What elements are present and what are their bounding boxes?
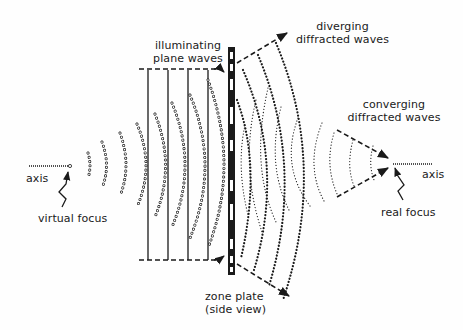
axis-left-label: axis [26, 172, 48, 185]
virtual-wavefronts [88, 80, 224, 248]
illuminating-label: illuminating plane waves [138, 39, 238, 65]
plane-wave-lines [148, 70, 208, 260]
zone-plate-strip [228, 47, 235, 275]
illuminating-line1: illuminating [138, 39, 238, 52]
real-focus-label: real focus [381, 206, 436, 219]
virtual-wavefronts-inner [88, 80, 224, 248]
zone-plate-line2: (side view) [205, 303, 266, 316]
axis-right-label: axis [422, 168, 444, 181]
virtual-focus-label: virtual focus [38, 212, 107, 225]
illumination-boundary [139, 69, 224, 260]
converging-line1: converging [335, 98, 453, 111]
virtual-focus-arrow-icon [59, 172, 68, 207]
converging-label: converging diffracted waves [335, 98, 453, 124]
diverging-line1: diverging [285, 20, 400, 33]
diverging-line2: diffracted waves [285, 33, 400, 46]
zone-plate-line1: zone plate [205, 290, 266, 303]
real-focus-arrow-icon [395, 168, 404, 200]
illuminating-line2: plane waves [138, 52, 238, 65]
left-axis-line [29, 164, 72, 167]
zone-plate-diagram: illuminating plane waves diverging diffr… [0, 0, 463, 330]
converging-arrows [337, 130, 388, 197]
diverging-wavefronts [237, 43, 304, 300]
converging-line2: diffracted waves [335, 111, 453, 124]
zone-plate-label: zone plate (side view) [205, 290, 266, 316]
diverging-label: diverging diffracted waves [285, 20, 400, 46]
